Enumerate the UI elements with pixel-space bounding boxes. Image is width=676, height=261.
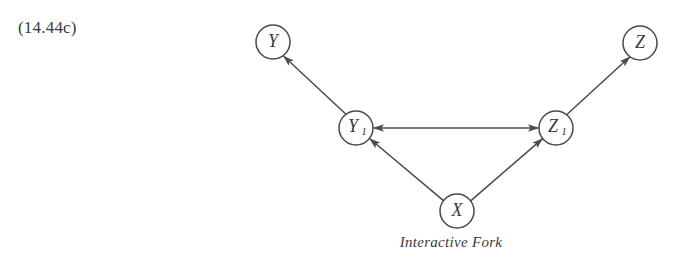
node-z-label: Z — [635, 32, 646, 52]
edge-x-to-z1 — [471, 139, 543, 201]
causal-diagram: Y Z Y 1 Z 1 X — [0, 0, 676, 261]
node-z: Z — [623, 26, 657, 60]
node-x: X — [440, 194, 474, 228]
node-z1-subscript: 1 — [561, 125, 567, 137]
node-z1-label: Z — [548, 116, 559, 136]
node-y1: Y 1 — [339, 111, 373, 145]
edge-z1-to-z — [567, 57, 630, 115]
figure-container: (14.44c) Y Z — [0, 0, 676, 261]
node-x-label: X — [451, 200, 464, 220]
node-y1-subscript: 1 — [361, 125, 367, 137]
node-y: Y — [256, 25, 290, 59]
figure-caption-text: Interactive Fork — [400, 234, 503, 251]
node-z1: Z 1 — [539, 111, 573, 145]
figure-caption: Interactive Fork — [0, 234, 676, 251]
edge-y1-to-y — [284, 56, 347, 114]
edge-x-to-y1 — [370, 139, 444, 201]
